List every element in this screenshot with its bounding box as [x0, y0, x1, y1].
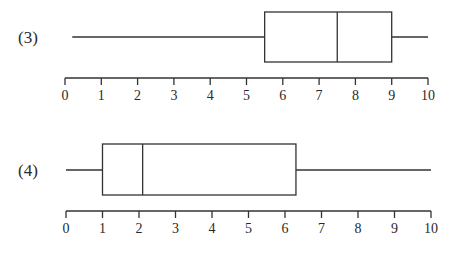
tick-label: 9	[391, 221, 398, 236]
tick-label: 3	[170, 88, 177, 103]
tick-label: 6	[279, 88, 286, 103]
tick-label: 8	[355, 221, 362, 236]
tick-label: 6	[282, 221, 289, 236]
tick-label: 10	[421, 88, 435, 103]
tick-label: 2	[136, 221, 143, 236]
tick-label: 4	[209, 221, 216, 236]
tick-label: 9	[388, 88, 395, 103]
tick-label: 3	[172, 221, 179, 236]
tick-label: 5	[245, 221, 252, 236]
boxplot-4: (4)012345678910	[18, 144, 438, 236]
iqr-box	[103, 144, 296, 195]
tick-label: 10	[424, 221, 438, 236]
tick-label: 1	[98, 88, 105, 103]
tick-label: 7	[318, 221, 325, 236]
tick-label: 0	[63, 221, 70, 236]
tick-label: 2	[134, 88, 141, 103]
plot-label: (3)	[18, 28, 38, 47]
boxplot-3: (3)012345678910	[18, 12, 435, 103]
tick-label: 5	[243, 88, 250, 103]
plot-label: (4)	[18, 161, 38, 180]
tick-label: 0	[62, 88, 69, 103]
tick-label: 4	[207, 88, 214, 103]
boxplot-figure: (3)012345678910(4)012345678910	[0, 0, 464, 254]
x-axis: 012345678910	[63, 211, 439, 236]
iqr-box	[265, 12, 392, 62]
x-axis: 012345678910	[62, 78, 436, 103]
tick-label: 7	[316, 88, 323, 103]
tick-label: 1	[99, 221, 106, 236]
tick-label: 8	[352, 88, 359, 103]
